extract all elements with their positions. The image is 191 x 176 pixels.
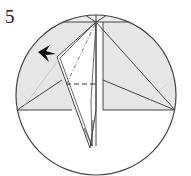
origami-diagram: [0, 0, 191, 176]
